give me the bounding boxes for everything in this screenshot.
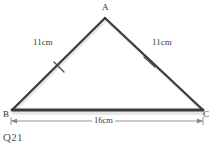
- triangle-side-ab: [12, 18, 105, 110]
- triangle-shadow-group: [13, 20, 204, 113]
- dimension-arrow-left-icon: [11, 119, 17, 124]
- vertex-label-c: C: [203, 110, 209, 119]
- triangle-side-ac: [105, 18, 203, 110]
- vertex-label-b: B: [3, 110, 9, 119]
- side-length-label-ac: 11cm: [152, 38, 172, 47]
- vertex-label-a: A: [102, 3, 109, 12]
- dimension-arrow-right-icon: [197, 119, 203, 124]
- side-length-label-bc: 16cm: [92, 116, 115, 125]
- caption-number: Q21: [3, 131, 23, 143]
- triangle-figure: A B C 11cm 11cm 16cm Q21: [0, 0, 213, 144]
- side-length-label-ab: 11cm: [33, 38, 53, 47]
